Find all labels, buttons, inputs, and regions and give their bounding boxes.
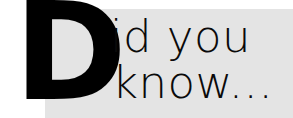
headline-text-block: id you know... xyxy=(110,14,273,105)
headline-line-1: id you xyxy=(110,14,273,59)
headline-line-2: know... xyxy=(112,60,273,105)
drop-cap-letter-d: D xyxy=(14,0,125,118)
did-you-know-graphic: D id you know... xyxy=(0,0,293,118)
